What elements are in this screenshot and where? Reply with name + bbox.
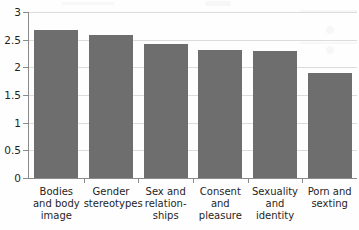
y-tick-mark [23,40,28,41]
y-tick-mark [23,150,28,151]
x-category-label: Bodies and body image [29,186,84,222]
y-tick-label: 2.5 [0,35,21,46]
bar [89,35,133,178]
y-tick-label: 0 [0,173,21,184]
x-category-label: Consent and pleasure [193,186,248,222]
y-tick-mark [23,95,28,96]
y-tick-label: 2 [0,62,21,73]
bar [34,30,78,178]
bar [144,44,188,178]
bar [308,73,352,178]
y-tick-mark [23,12,28,13]
x-category-label: Sexuality and identity [248,186,303,222]
gridline [29,12,357,13]
x-category-label: Gender stereotypes [84,186,139,210]
y-tick-label: 0.5 [0,145,21,156]
x-category-label: Sex and relation- ships [138,186,193,222]
y-tick-label: 3 [0,7,21,18]
y-tick-mark [23,67,28,68]
x-tick-mark [302,179,303,183]
x-category-label: Porn and sexting [302,186,357,210]
y-tick-mark [23,178,28,179]
scan-artifact [205,1,231,6]
y-tick-label: 1.5 [0,90,21,101]
x-tick-mark [138,179,139,183]
plot-area [29,12,357,178]
y-tick-mark [23,123,28,124]
scan-artifact [62,2,114,5]
bar-chart-figure: 00.511.522.53 Bodies and body imageGende… [0,0,359,230]
y-tick-label: 1 [0,118,21,129]
x-tick-mark [84,179,85,183]
x-tick-mark [193,179,194,183]
bar [198,50,242,178]
bar [253,51,297,178]
x-tick-mark [248,179,249,183]
